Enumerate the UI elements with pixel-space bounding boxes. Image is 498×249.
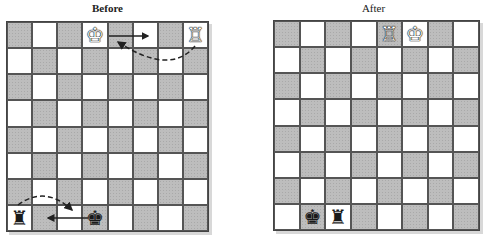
square-f2 xyxy=(133,179,158,205)
square-c7 xyxy=(57,48,82,74)
square-e4 xyxy=(108,127,133,153)
square-g6 xyxy=(158,74,183,100)
square-a2 xyxy=(274,178,300,204)
square-c6 xyxy=(57,74,82,100)
square-g5 xyxy=(428,99,454,125)
square-b4 xyxy=(300,126,326,152)
white-king-icon: ♔ xyxy=(86,25,104,45)
square-h1 xyxy=(183,205,208,231)
square-d4 xyxy=(82,127,107,153)
square-g5 xyxy=(158,100,183,126)
square-c3 xyxy=(57,153,82,179)
before-chessboard: ♔♖♜♚ xyxy=(6,21,209,232)
square-f8: ♔ xyxy=(402,21,428,47)
square-b2 xyxy=(300,178,326,204)
square-a6 xyxy=(274,73,300,99)
square-e7 xyxy=(108,48,133,74)
square-e3 xyxy=(377,152,403,178)
square-g1 xyxy=(158,205,183,231)
square-d2 xyxy=(351,178,377,204)
square-a7 xyxy=(274,47,300,73)
square-f3 xyxy=(402,152,428,178)
after-chessboard: ♖♔♚♜ xyxy=(273,20,480,231)
square-e4 xyxy=(377,126,403,152)
square-h2 xyxy=(453,178,479,204)
square-b3 xyxy=(300,152,326,178)
square-h8 xyxy=(453,21,479,47)
square-f6 xyxy=(402,73,428,99)
square-f6 xyxy=(133,74,158,100)
square-h3 xyxy=(453,152,479,178)
square-d2 xyxy=(82,179,107,205)
before-title: Before xyxy=(0,2,215,14)
square-g7 xyxy=(158,48,183,74)
square-c2 xyxy=(57,179,82,205)
square-a1 xyxy=(274,204,300,230)
square-g4 xyxy=(428,126,454,152)
square-h4 xyxy=(183,127,208,153)
square-a8 xyxy=(7,22,32,48)
square-e6 xyxy=(377,73,403,99)
square-c5 xyxy=(325,99,351,125)
square-g2 xyxy=(428,178,454,204)
white-rook-icon: ♖ xyxy=(380,24,398,44)
square-b3 xyxy=(32,153,57,179)
square-b8 xyxy=(300,21,326,47)
square-e5 xyxy=(377,99,403,125)
square-c3 xyxy=(325,152,351,178)
square-f7 xyxy=(402,47,428,73)
after-title: After xyxy=(249,2,498,14)
square-g3 xyxy=(428,152,454,178)
square-f5 xyxy=(133,100,158,126)
square-g4 xyxy=(158,127,183,153)
square-e1 xyxy=(377,204,403,230)
before-panel: Before ♔♖♜♚ xyxy=(0,0,215,249)
square-h6 xyxy=(183,74,208,100)
square-h3 xyxy=(183,153,208,179)
square-g6 xyxy=(428,73,454,99)
square-d3 xyxy=(351,152,377,178)
square-a4 xyxy=(7,127,32,153)
square-e5 xyxy=(108,100,133,126)
square-h1 xyxy=(453,204,479,230)
square-b6 xyxy=(32,74,57,100)
square-d5 xyxy=(351,99,377,125)
square-b1 xyxy=(32,205,57,231)
square-h8: ♖ xyxy=(183,22,208,48)
square-a1: ♜ xyxy=(7,205,32,231)
square-d6 xyxy=(82,74,107,100)
square-d1: ♚ xyxy=(82,205,107,231)
square-f3 xyxy=(133,153,158,179)
square-b7 xyxy=(300,47,326,73)
square-b5 xyxy=(300,99,326,125)
square-c4 xyxy=(325,126,351,152)
square-h5 xyxy=(453,99,479,125)
square-b5 xyxy=(32,100,57,126)
square-c1: ♜ xyxy=(325,204,351,230)
square-c7 xyxy=(325,47,351,73)
square-a5 xyxy=(7,100,32,126)
square-b2 xyxy=(32,179,57,205)
square-a8 xyxy=(274,21,300,47)
square-c8 xyxy=(325,21,351,47)
square-e2 xyxy=(377,178,403,204)
square-a2 xyxy=(7,179,32,205)
black-rook-icon: ♜ xyxy=(329,207,347,227)
square-b8 xyxy=(32,22,57,48)
square-a4 xyxy=(274,126,300,152)
black-rook-icon: ♜ xyxy=(11,208,29,228)
square-g2 xyxy=(158,179,183,205)
square-a6 xyxy=(7,74,32,100)
square-h2 xyxy=(183,179,208,205)
square-c1 xyxy=(57,205,82,231)
square-d8: ♔ xyxy=(82,22,107,48)
square-f1 xyxy=(402,204,428,230)
square-e2 xyxy=(108,179,133,205)
square-a7 xyxy=(7,48,32,74)
square-f1 xyxy=(133,205,158,231)
square-b1: ♚ xyxy=(300,204,326,230)
black-king-icon: ♚ xyxy=(86,208,104,228)
square-g7 xyxy=(428,47,454,73)
square-c6 xyxy=(325,73,351,99)
square-a5 xyxy=(274,99,300,125)
